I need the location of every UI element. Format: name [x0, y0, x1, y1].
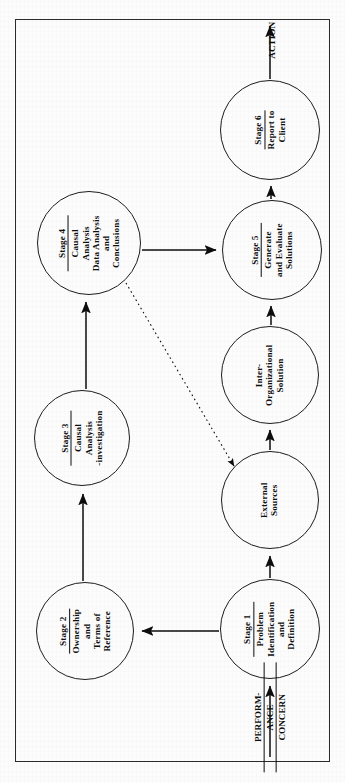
- node-external-sources-text: External Sources: [260, 482, 281, 517]
- node-stage1-line-2: Identification: [266, 601, 276, 656]
- node-stage4[interactable]: Stage 4 Causal Analysis Data Analysis an…: [37, 191, 141, 295]
- node-stage2-line-2: and: [81, 609, 91, 654]
- node-stage4-line-2: Analysis: [80, 215, 90, 271]
- edge-label-performance-concern: PERFORM- ANCE CONCERN: [253, 662, 288, 772]
- node-stage1-text: Stage 1 Problem Identification and Defin…: [243, 601, 297, 656]
- node-stage6-line-1: Report to: [266, 111, 276, 150]
- node-inter-organizational-solution[interactable]: Inter- Organizational Solution: [221, 326, 319, 424]
- node-stage5-text: Stage 5 Generate and Evaluate Solutions: [250, 223, 294, 277]
- node-stage5[interactable]: Stage 5 Generate and Evaluate Solutions: [222, 200, 322, 300]
- diagram-page: Stage 6 Report to Client Stage 5 Generat…: [0, 0, 345, 782]
- node-stage1-line-1: Problem: [256, 601, 266, 656]
- node-stage6[interactable]: Stage 6 Report to Client: [220, 80, 320, 180]
- node-external-sources-line-1: External: [260, 482, 270, 517]
- node-stage3[interactable]: Stage 3 Causal Analysis -investigation: [34, 390, 130, 486]
- node-stage1-line-3: and: [277, 601, 287, 656]
- edge-label-performance-concern-line-3: CONCERN: [277, 662, 288, 772]
- node-inter-organizational-solution-text: Inter- Organizational Solution: [255, 344, 286, 405]
- node-stage3-line-2: Analysis: [84, 410, 94, 465]
- node-stage6-text: Stage 6 Report to Client: [253, 111, 287, 150]
- node-stage4-stage-label: Stage 4: [57, 215, 69, 271]
- node-stage4-text: Stage 4 Causal Analysis Data Analysis an…: [57, 215, 122, 271]
- edge-label-action-text: ACTION: [267, 0, 278, 80]
- node-stage4-line-3: Data Analysis: [91, 215, 101, 271]
- edge-label-action: ACTION: [267, 0, 278, 80]
- node-inter-organizational-solution-line-1: Inter-: [255, 344, 265, 405]
- node-stage3-line-1: Causal: [73, 410, 83, 465]
- node-stage2-line-3: Terms of: [92, 609, 102, 654]
- node-stage1-stage-label: Stage 1: [243, 601, 255, 656]
- node-stage2[interactable]: Stage 2 Ownership and Terms of Reference: [36, 582, 134, 680]
- node-stage1-line-4: Definition: [287, 601, 297, 656]
- node-stage4-line-5: Conclusions: [111, 215, 121, 271]
- node-stage5-stage-label: Stage 5: [250, 223, 262, 277]
- node-inter-organizational-solution-line-3: Solution: [275, 344, 285, 405]
- node-stage3-line-3: -investigation: [94, 410, 104, 465]
- node-stage5-line-3: Solutions: [284, 223, 294, 277]
- node-stage3-stage-label: Stage 3: [60, 410, 72, 465]
- node-stage2-stage-label: Stage 2: [58, 609, 70, 654]
- node-inter-organizational-solution-line-2: Organizational: [265, 344, 275, 405]
- node-stage6-line-2: Client: [277, 111, 287, 150]
- node-stage3-text: Stage 3 Causal Analysis -investigation: [60, 410, 104, 465]
- edge-label-performance-concern-line-2: ANCE: [265, 662, 277, 772]
- edge-label-performance-concern-line-1: PERFORM-: [253, 662, 265, 772]
- node-stage4-line-4: and: [101, 215, 111, 271]
- node-stage2-line-4: Reference: [102, 609, 112, 654]
- node-stage2-text: Stage 2 Ownership and Terms of Reference: [58, 609, 112, 654]
- node-stage6-stage-label: Stage 6: [253, 111, 265, 150]
- node-stage5-line-1: Generate: [263, 223, 273, 277]
- node-stage4-line-1: Causal: [70, 215, 80, 271]
- node-external-sources[interactable]: External Sources: [221, 451, 319, 549]
- edge-stage4-to-external-sources: [126, 283, 234, 466]
- node-stage5-line-2: and Evaluate: [274, 223, 284, 277]
- node-external-sources-line-2: Sources: [270, 482, 280, 517]
- node-stage2-line-1: Ownership: [71, 609, 81, 654]
